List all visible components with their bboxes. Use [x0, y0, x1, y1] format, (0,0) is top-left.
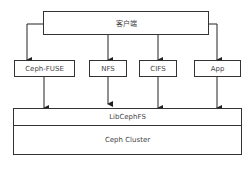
cifs-box: CIFS [139, 60, 177, 77]
client-box: 客户端 [43, 11, 209, 35]
ceph-fuse-box: Ceph-FUSE [14, 60, 75, 77]
nfs-box: NFS [89, 60, 127, 77]
libcephfs-box: LibCephFS [13, 108, 242, 126]
arrow-client-to-app [208, 24, 217, 60]
ceph-cluster-box: Ceph Cluster [13, 125, 242, 155]
arrow-client-to-ceph-fuse [27, 24, 43, 60]
app-box: App [194, 60, 241, 77]
